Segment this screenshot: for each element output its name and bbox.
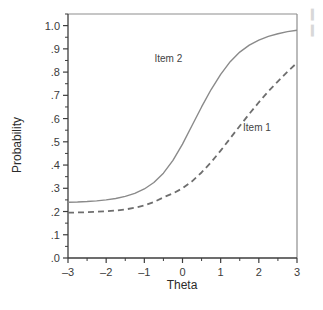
y-tick-label: .0 bbox=[51, 252, 60, 264]
x-tick-label: 2 bbox=[256, 266, 262, 278]
y-tick-label: .9 bbox=[51, 43, 60, 55]
y-tick-label: .1 bbox=[51, 229, 60, 241]
y-tick-label: .2 bbox=[51, 206, 60, 218]
cropped-edge-text-fragments: ▍ ▍ bbox=[310, 8, 319, 37]
x-tick-label: –1 bbox=[138, 266, 150, 278]
y-tick-label: .6 bbox=[51, 113, 60, 125]
plot-frame bbox=[68, 14, 297, 258]
y-axis-title: Probability bbox=[10, 117, 24, 173]
series-label-item-1: Item 1 bbox=[243, 122, 271, 133]
edge-fragment-2: ▍ bbox=[310, 24, 319, 37]
y-tick-label: .3 bbox=[51, 182, 60, 194]
y-tick-label: .5 bbox=[51, 136, 60, 148]
y-tick-label: .7 bbox=[51, 89, 60, 101]
series-line-item-1 bbox=[68, 63, 297, 213]
x-axis-title: Theta bbox=[167, 278, 198, 292]
x-axis-ticks bbox=[68, 258, 297, 263]
y-tick-label: .4 bbox=[51, 159, 60, 171]
y-axis-tick-labels: .0.1.2.3.4.5.6.7.8.91.0 bbox=[45, 20, 60, 264]
x-tick-label: 0 bbox=[179, 266, 185, 278]
chart-canvas: .0.1.2.3.4.5.6.7.8.91.0 –3–2–10123 Item … bbox=[0, 0, 323, 310]
y-tick-label: 1.0 bbox=[45, 20, 60, 32]
edge-fragment-1: ▍ bbox=[310, 8, 319, 21]
series-line-item-2 bbox=[68, 30, 297, 202]
y-tick-label: .8 bbox=[51, 66, 60, 78]
x-tick-label: –3 bbox=[62, 266, 74, 278]
series-annotation-group: Item 1Item 2 bbox=[154, 53, 271, 134]
x-tick-label: –2 bbox=[100, 266, 112, 278]
item-characteristic-curve-chart: .0.1.2.3.4.5.6.7.8.91.0 –3–2–10123 Item … bbox=[0, 0, 323, 310]
x-axis-tick-labels: –3–2–10123 bbox=[62, 266, 300, 278]
series-label-item-2: Item 2 bbox=[154, 53, 182, 64]
x-tick-label: 3 bbox=[294, 266, 300, 278]
x-tick-label: 1 bbox=[218, 266, 224, 278]
